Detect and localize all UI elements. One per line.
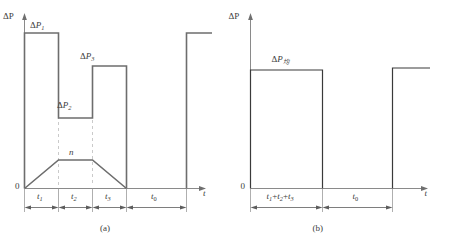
figure-container: ΔP t 0 ΔP1 ΔP2 ΔP3 n t1 t2 t3: [0, 0, 451, 246]
level-label-delta-p1: ΔP1: [30, 21, 44, 30]
y-axis-arrow-a: [22, 13, 27, 20]
level-label-delta-p2: ΔP2: [57, 101, 71, 110]
waveform-repeat-pulse-a: [187, 33, 213, 189]
level-label-delta-p3: ΔP3: [80, 52, 94, 61]
time-label-t0-b: t0: [353, 192, 359, 201]
curve-label-n: n: [69, 148, 74, 157]
dimension-row-a: [25, 205, 187, 209]
panel-b-graphics: [226, 0, 451, 246]
x-axis-label-b: t: [425, 189, 428, 198]
panel-a-graphics: [0, 0, 226, 246]
time-label-t1: t1: [37, 192, 43, 201]
origin-label-a: 0: [15, 182, 20, 191]
caption-a: (a): [100, 224, 110, 233]
time-label-t1-t2-t3-sum: t1+t2+t3: [267, 192, 294, 201]
panel-a: ΔP t 0 ΔP1 ΔP2 ΔP3 n t1 t2 t3: [0, 0, 226, 246]
time-label-t3: t3: [105, 192, 111, 201]
level-label-delta-p-mean: ΔP均: [272, 55, 289, 64]
panel-b: ΔP t 0 ΔP均 t1+t2+t3 t0 (b): [226, 0, 451, 246]
waveform-steps-a: [25, 33, 127, 189]
time-label-t0: t0: [151, 192, 157, 201]
y-axis-arrow-b: [248, 13, 253, 20]
caption-b: (b): [313, 224, 324, 233]
time-label-t2: t2: [71, 192, 77, 201]
y-axis-label-a: ΔP: [3, 12, 14, 21]
x-axis-label-a: t: [203, 189, 206, 198]
waveform-n-trapezoid-a: [25, 160, 127, 189]
waveform-mean-pulse-b: [250, 70, 322, 189]
dimension-row-b: [250, 205, 392, 209]
origin-label-b: 0: [241, 182, 246, 191]
waveform-repeat-pulse-b: [392, 68, 430, 189]
y-axis-label-b: ΔP: [229, 12, 240, 21]
